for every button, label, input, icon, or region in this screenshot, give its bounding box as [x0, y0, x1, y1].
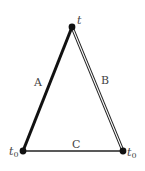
vertex-bottom-right-dot: [120, 148, 127, 155]
edge-a-thick-line: [23, 27, 72, 151]
vertex-bottom-left-dot: [20, 148, 27, 155]
vertex-bottom-right-label: t0: [127, 147, 137, 158]
edge-b-label: B: [101, 75, 109, 86]
vertex-bottom-left-label: t0: [9, 146, 19, 157]
vertex-bottom-right-label-sub: 0: [131, 151, 136, 160]
vertex-top-label: t: [77, 15, 81, 26]
vertex-bottom-left-label-sub: 0: [13, 150, 18, 159]
edge-b-double-line: [72, 27, 123, 151]
edge-a-label: A: [34, 77, 42, 88]
edge-c-label: C: [72, 139, 80, 150]
vertex-top-dot: [69, 24, 76, 31]
